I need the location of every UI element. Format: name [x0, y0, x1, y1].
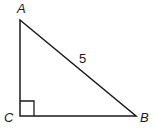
right-angle-marker: [20, 101, 34, 116]
vertex-label-b: B: [140, 110, 149, 125]
triangle-abc: [20, 20, 136, 116]
vertex-label-c: C: [4, 110, 14, 125]
side-label-ab: 5: [79, 51, 86, 66]
triangle-diagram: A C B 5: [0, 0, 153, 132]
vertex-label-a: A: [16, 1, 26, 16]
